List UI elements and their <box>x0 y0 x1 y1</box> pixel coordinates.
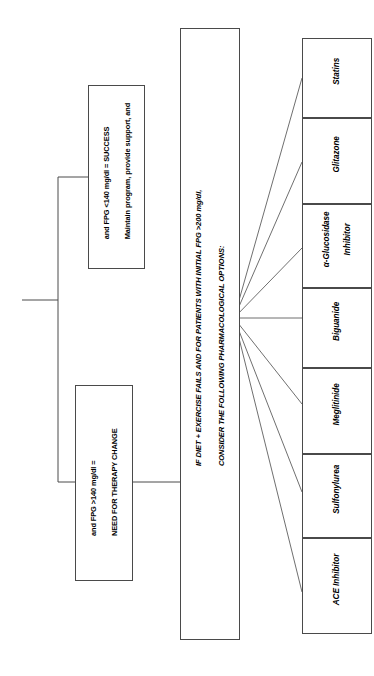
fan-to-alpha-gluc <box>234 248 302 318</box>
fan-to-statins <box>234 78 302 318</box>
success-outcome-text: After 8–12 weeks, HbA1c <7% and FPG <140… <box>88 103 145 251</box>
therapy-line-1a: After 8–12 weeks, HbA <box>75 459 76 537</box>
drug-label-text: α-Glucosidase <box>321 211 330 267</box>
pharmacological-options-text: IF DIET + EXERCISE FAILS AND FOR PATIENT… <box>181 190 239 478</box>
flowchart-canvas: After 8–12 weeks, HbA1c <7% and FPG <140… <box>0 0 374 676</box>
branch-to-success <box>58 177 88 300</box>
drug-option-meglitinide[interactable]: Meglitinide <box>302 368 372 454</box>
central-line-2: CONSIDER THE FOLLOWING PHARMACOLOGICAL O… <box>217 246 226 466</box>
therapy-line-2: and FPG >140 mg/dl = <box>89 460 98 536</box>
drug-label-statins: Statins <box>321 58 353 98</box>
therapy-line-3: NEED FOR THERAPY CHANGE <box>110 428 119 536</box>
fan-to-ace-inhibitor <box>234 318 302 592</box>
success-line-4: follow-up in 8-12 weeks <box>143 159 145 240</box>
drug-option-glitazone[interactable]: Glitazone <box>302 118 372 204</box>
drug-label-text: ACE Inhibitor <box>332 554 341 606</box>
success-line-2: and FPG <140 mg/dl = SUCCESS <box>101 127 110 240</box>
drug-label-biguanide: Biguanide <box>321 302 353 354</box>
drug-label-glitazone: Glitazone <box>321 136 353 186</box>
fan-to-meglitinide <box>234 318 302 404</box>
drug-label-text: Meglitinide <box>332 383 341 425</box>
drug-label-text-line2: Inhibitor <box>342 223 351 255</box>
fan-to-glitazone <box>234 162 302 318</box>
fan-to-sulfonylurea <box>234 318 302 492</box>
therapy-line-1b: >8% <box>75 436 76 453</box>
drug-label-text: Glitazone <box>332 136 341 172</box>
drug-label-text: Statins <box>332 58 341 85</box>
drug-label-sulfonylurea: Sulfonylurea <box>321 465 353 527</box>
drug-label-ace-inhibitor: ACE Inhibitor <box>321 554 353 619</box>
drug-option-statins[interactable]: Statins <box>302 38 372 118</box>
success-outcome-box: After 8–12 weeks, HbA1c <7% and FPG <140… <box>88 85 145 269</box>
drug-option-sulfonylurea[interactable]: Sulfonylurea <box>302 454 372 538</box>
drug-label-meglitinide: Meglitinide <box>321 383 353 439</box>
branch-to-therapy <box>58 300 75 482</box>
drug-label-text: Biguanide <box>332 302 341 341</box>
drug-label-alpha-glucosidase: α-Glucosidase Inhibitor <box>311 211 364 280</box>
therapy-line-4: START pharmacological treatment <box>131 418 133 536</box>
drug-label-text: Sulfonylurea <box>332 465 341 514</box>
drug-option-ace-inhibitor[interactable]: ACE Inhibitor <box>302 538 372 634</box>
drug-option-biguanide[interactable]: Biguanide <box>302 288 372 368</box>
success-line-3: Maintain program, provide support, and <box>122 103 131 240</box>
central-line-1: IF DIET + EXERCISE FAILS AND FOR PATIENT… <box>194 190 203 466</box>
drug-option-alpha-glucosidase-inhibitor[interactable]: α-Glucosidase Inhibitor <box>302 204 372 288</box>
therapy-change-text: After 8–12 weeks, HbA1c >8% and FPG >140… <box>75 418 133 548</box>
therapy-line-1-subscript: 1c <box>75 453 76 459</box>
therapy-change-box: After 8–12 weeks, HbA1c >8% and FPG >140… <box>75 385 133 581</box>
success-line-1-subscript: 1c <box>88 156 89 162</box>
pharmacological-options-box: IF DIET + EXERCISE FAILS AND FOR PATIENT… <box>180 28 240 640</box>
